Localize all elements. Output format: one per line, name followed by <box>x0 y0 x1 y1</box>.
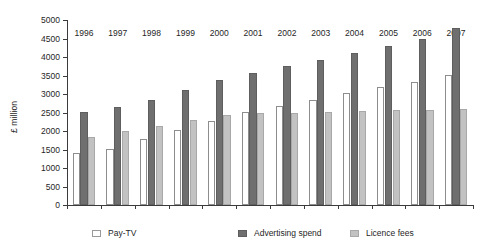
x-tick <box>270 205 271 209</box>
y-tick-label: 2500 <box>41 108 60 118</box>
x-tick <box>439 205 440 209</box>
bar <box>317 60 324 205</box>
bar <box>88 137 95 205</box>
legend-swatch-icon <box>350 230 359 237</box>
y-tick-label: 4500 <box>41 34 60 44</box>
bar <box>276 106 283 205</box>
bar <box>73 153 80 205</box>
bar <box>140 139 147 205</box>
bar-group <box>445 20 468 205</box>
bar <box>216 80 223 205</box>
bar <box>249 73 256 205</box>
bar <box>452 28 459 205</box>
x-tick <box>202 205 203 209</box>
bar <box>148 100 155 205</box>
bar-group <box>73 20 96 205</box>
bar <box>174 130 181 205</box>
x-tick <box>473 205 474 209</box>
y-tick <box>63 57 68 58</box>
bar <box>393 110 400 205</box>
x-tick <box>405 205 406 209</box>
bar <box>419 39 426 206</box>
bar-group <box>106 20 129 205</box>
bar <box>106 149 113 205</box>
y-tick <box>63 39 68 40</box>
y-tick <box>63 131 68 132</box>
y-tick-label: 2000 <box>41 126 60 136</box>
bar <box>283 66 290 205</box>
bar-group <box>276 20 299 205</box>
legend-item-lic[interactable]: Licence fees <box>350 228 414 238</box>
bar <box>445 75 452 205</box>
y-tick <box>63 150 68 151</box>
bar <box>242 112 249 205</box>
bar <box>122 131 129 205</box>
y-tick-label: 0 <box>55 200 60 210</box>
chart-legend: Pay-TVAdvertising spendLicence fees <box>0 228 481 248</box>
bar <box>182 90 189 205</box>
x-tick <box>169 205 170 209</box>
y-tick-label: 500 <box>46 182 60 192</box>
plot-area: 0500100015002000250030003500400045005000… <box>67 20 473 205</box>
bar <box>325 112 332 205</box>
x-tick <box>135 205 136 209</box>
x-tick <box>304 205 305 209</box>
y-tick <box>63 187 68 188</box>
legend-label: Advertising spend <box>254 228 322 238</box>
x-tick <box>372 205 373 209</box>
bar <box>208 121 215 205</box>
y-tick-label: 1000 <box>41 163 60 173</box>
bar-group <box>174 20 197 205</box>
bar-group <box>377 20 400 205</box>
x-tick <box>67 205 68 209</box>
y-tick <box>63 20 68 21</box>
bar-group <box>242 20 265 205</box>
bar <box>460 109 467 205</box>
bar <box>309 100 316 205</box>
x-tick <box>338 205 339 209</box>
y-tick <box>63 113 68 114</box>
bar <box>114 107 121 205</box>
y-tick-label: 5000 <box>41 15 60 25</box>
x-tick <box>236 205 237 209</box>
bar <box>343 93 350 205</box>
y-tick <box>63 76 68 77</box>
legend-swatch-icon <box>92 230 101 237</box>
y-tick-label: 3000 <box>41 89 60 99</box>
bar <box>411 82 418 205</box>
legend-label: Pay-TV <box>108 228 136 238</box>
bar-group <box>309 20 332 205</box>
bar <box>223 115 230 205</box>
y-tick-label: 4000 <box>41 52 60 62</box>
bar <box>351 53 358 205</box>
bar <box>377 87 384 205</box>
y-tick <box>63 168 68 169</box>
bar-chart: £ million 050010001500200025003000350040… <box>0 0 481 252</box>
bar <box>257 113 264 205</box>
bar-group <box>140 20 163 205</box>
bar <box>359 111 366 205</box>
y-tick-label: 3500 <box>41 71 60 81</box>
bar-group <box>208 20 231 205</box>
x-tick <box>101 205 102 209</box>
bar-group <box>411 20 434 205</box>
y-tick <box>63 94 68 95</box>
bar <box>426 110 433 205</box>
legend-item-ad[interactable]: Advertising spend <box>238 228 322 238</box>
legend-item-paytv[interactable]: Pay-TV <box>92 228 136 238</box>
bar <box>156 126 163 205</box>
legend-swatch-icon <box>238 230 247 237</box>
bar <box>385 46 392 205</box>
y-tick-label: 1500 <box>41 145 60 155</box>
bar <box>190 120 197 205</box>
legend-label: Licence fees <box>366 228 414 238</box>
bar <box>80 112 87 205</box>
y-axis-title: £ million <box>9 82 19 152</box>
bar-group <box>343 20 366 205</box>
bar <box>291 113 298 206</box>
